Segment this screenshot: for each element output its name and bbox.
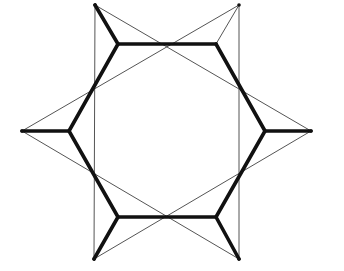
tip-dot-left (20, 129, 24, 133)
tip-dot-bottom-left (92, 257, 96, 261)
thick-line (216, 44, 265, 131)
thick-line (95, 5, 118, 44)
tip-dot-top-right (237, 3, 241, 7)
thick-line (69, 131, 118, 217)
thick-star-outline (22, 5, 311, 259)
tip-dot-right (309, 129, 313, 133)
thin-line (94, 5, 95, 259)
thin-line (22, 131, 239, 259)
thick-line (94, 217, 118, 259)
thin-line (216, 5, 239, 44)
thin-line (22, 5, 239, 131)
tip-dot-top-left (93, 3, 97, 7)
thin-line (95, 5, 311, 131)
thick-line (69, 44, 118, 131)
thin-line (94, 131, 311, 259)
thick-line (216, 131, 265, 217)
star-diagram (0, 0, 344, 271)
tip-dot-bottom-right (237, 257, 241, 261)
